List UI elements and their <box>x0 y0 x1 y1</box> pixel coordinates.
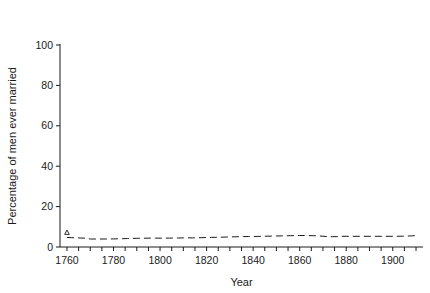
x-tick-label: 1780 <box>102 254 126 266</box>
axis-frame <box>60 44 423 247</box>
x-tick-label: 1880 <box>335 254 359 266</box>
x-tick-label: 1800 <box>148 254 172 266</box>
x-tick-label: 1760 <box>55 254 79 266</box>
y-tick-label: 20 <box>41 200 53 212</box>
x-axis-title: Year <box>230 276 253 288</box>
x-tick-label: 1820 <box>195 254 219 266</box>
married-percentage-chart: 020406080100Percentage of men ever marri… <box>0 0 430 293</box>
y-tick-label: 80 <box>41 79 53 91</box>
x-tick-label: 1860 <box>288 254 312 266</box>
y-tick-label: 100 <box>35 39 53 51</box>
y-tick-label: 0 <box>47 241 53 253</box>
y-tick-label: 40 <box>41 160 53 172</box>
y-axis-title: Percentage of men ever married <box>6 67 18 225</box>
series-1-16 <box>67 235 418 239</box>
data-point <box>65 230 70 234</box>
chart-root: 020406080100Percentage of men ever marri… <box>0 0 430 293</box>
y-tick-label: 60 <box>41 119 53 131</box>
x-tick-label: 1840 <box>241 254 265 266</box>
x-tick-label: 1900 <box>381 254 405 266</box>
smoothed-line-1-16 <box>67 235 418 239</box>
